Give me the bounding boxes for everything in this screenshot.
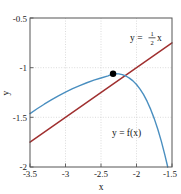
ytick-label-0: -0.5: [13, 14, 28, 24]
annotation-function-label: y = f(x): [112, 128, 141, 139]
line-equation-suffix: x: [157, 33, 162, 43]
plot-canvas: -3.5 -3 -2.5 -2 -1.5 -0.5 -1 -1.5 -2 x y…: [0, 0, 181, 194]
ytick-label-3: -2: [20, 162, 28, 172]
x-axis-title: x: [99, 182, 104, 192]
xtick-label-3: -2: [133, 169, 141, 179]
line-equation-denominator: 2: [150, 39, 153, 46]
ytick-label-1: -1: [20, 63, 28, 73]
chart-figure: -3.5 -3 -2.5 -2 -1.5 -0.5 -1 -1.5 -2 x y…: [0, 0, 181, 194]
tangency-point-marker: [110, 71, 116, 77]
y-axis-title: y: [1, 90, 11, 95]
line-equation-numerator: 1: [150, 30, 153, 37]
xtick-label-2: -2.5: [94, 169, 109, 179]
xtick-label-1: -3: [62, 169, 70, 179]
xtick-label-4: -1.5: [163, 169, 178, 179]
ytick-label-2: -1.5: [13, 113, 28, 123]
line-equation-prefix: y =: [130, 33, 142, 43]
